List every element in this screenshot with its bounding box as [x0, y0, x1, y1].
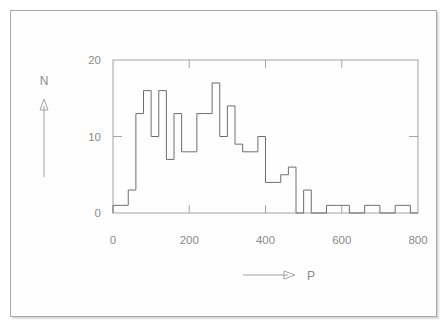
x-tick-label-0: 0: [110, 234, 116, 246]
histogram-plot: 0 10 20 0 200 400 600 800 N P: [0, 0, 445, 331]
histogram-step-outline: [113, 83, 418, 213]
x-axis-right-arrow-icon: [243, 271, 295, 279]
x-tick-label-600: 600: [332, 234, 351, 246]
y-axis-up-arrow-icon: [40, 99, 48, 177]
x-tick-label-200: 200: [180, 234, 199, 246]
y-tick-label-20: 20: [88, 54, 101, 66]
y-tick-label-10: 10: [88, 131, 101, 143]
x-axis-name-label: P: [307, 269, 315, 283]
x-tick-label-400: 400: [256, 234, 275, 246]
figure-root: 0 10 20 0 200 400 600 800 N P: [0, 0, 445, 331]
x-tick-label-800: 800: [408, 234, 427, 246]
y-axis-name-label: N: [40, 74, 49, 88]
y-tick-label-0: 0: [95, 207, 101, 219]
